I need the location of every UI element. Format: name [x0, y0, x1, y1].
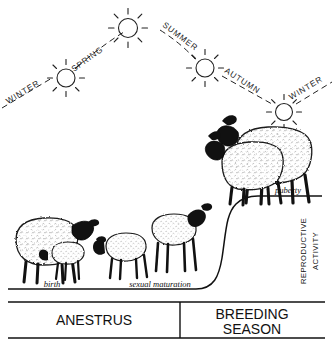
y-axis-label-group: REPRODUCTIVE ACTIVITY — [299, 218, 320, 284]
sun-icon-4 — [267, 95, 302, 130]
phase-label-anestrus: ANESTRUS — [56, 312, 132, 328]
animal-group-growing-lambs — [93, 203, 212, 279]
label-puberty: puberty — [274, 185, 301, 195]
phase-label-breeding-line1: BREEDING — [215, 306, 288, 322]
season-label-autumn: AUTUMN — [223, 66, 262, 96]
figure-canvas: WINTER SPRING SUMMER AUTUMN WINTER — [0, 0, 333, 342]
label-birth: birth — [44, 279, 61, 289]
label-sexual-maturation: sexual maturation — [129, 279, 191, 289]
season-label-summer: SUMMER — [161, 20, 200, 52]
y-axis-label-line1: REPRODUCTIVE — [299, 218, 308, 284]
y-axis-label-line2: ACTIVITY — [311, 232, 320, 270]
season-arc-group: WINTER SPRING SUMMER AUTUMN WINTER — [2, 9, 332, 130]
phase-label-breeding-line2: SEASON — [223, 321, 281, 337]
diagram-svg: WINTER SPRING SUMMER AUTUMN WINTER — [0, 0, 333, 342]
season-label-winter-left: WINTER — [4, 79, 41, 106]
phase-box-group: ANESTRUS BREEDING SEASON — [8, 302, 325, 338]
animal-group-ewe-with-lamb — [16, 218, 99, 283]
season-label-spring: SPRING — [70, 45, 105, 74]
sun-icon-2 — [109, 9, 148, 48]
sun-icon-3 — [187, 50, 224, 87]
